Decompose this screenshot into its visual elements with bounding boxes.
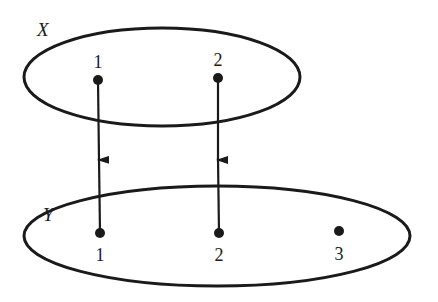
mapping-diagram: X 1 2 Y 1 2 3 — [0, 0, 438, 302]
set-y-element-2-label: 2 — [215, 245, 224, 265]
set-y-element-3-label: 3 — [335, 244, 344, 264]
set-y: Y 1 2 3 — [24, 186, 410, 286]
set-y-element-1-label: 1 — [96, 245, 105, 265]
mapping-arrow-2-to-2 — [218, 78, 219, 233]
set-x-element-1-label: 1 — [94, 52, 103, 72]
mapping-line-2 — [218, 158, 219, 233]
set-y-element-1: 1 — [95, 228, 105, 265]
set-y-element-3: 3 — [334, 226, 344, 264]
mapping-line-1 — [99, 158, 100, 233]
set-y-element-2: 2 — [214, 228, 224, 265]
mapping-arrow-1-to-1 — [98, 80, 100, 233]
set-x-label: X — [36, 19, 50, 40]
set-x-element-2-label: 2 — [214, 50, 223, 70]
set-y-element-3-dot — [334, 226, 344, 236]
arrow-down-icon — [98, 80, 99, 160]
set-y-label: Y — [43, 204, 56, 225]
set-x: X 1 2 — [24, 19, 300, 126]
set-x-ellipse — [24, 28, 300, 126]
